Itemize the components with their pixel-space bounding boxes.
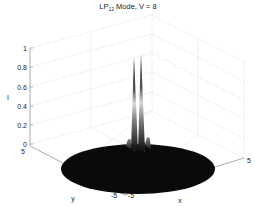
- z-tick-labels: 0 0.2 0.4 0.6 0.8 1: [17, 45, 27, 148]
- svg-text:-5: -5: [111, 192, 117, 199]
- svg-text:0.8: 0.8: [17, 64, 27, 71]
- svg-text:0.6: 0.6: [17, 84, 27, 91]
- main-peaks: [131, 54, 145, 150]
- y-axis-label: y: [71, 195, 75, 203]
- z-ticks: [30, 48, 33, 144]
- svg-text:0.2: 0.2: [17, 122, 27, 129]
- svg-text:0.4: 0.4: [17, 103, 27, 110]
- surface-base-disk: [61, 144, 215, 194]
- surface-plot: LP12 Mode, V = 8: [0, 0, 255, 206]
- x-axis-label: x: [178, 197, 182, 204]
- z-axis-label: I: [7, 94, 9, 101]
- svg-text:1: 1: [23, 45, 27, 52]
- svg-text:5: 5: [21, 148, 25, 155]
- chart-title: LP12 Mode, V = 8: [99, 2, 156, 12]
- svg-text:5: 5: [247, 157, 251, 164]
- svg-text:0: 0: [23, 141, 27, 148]
